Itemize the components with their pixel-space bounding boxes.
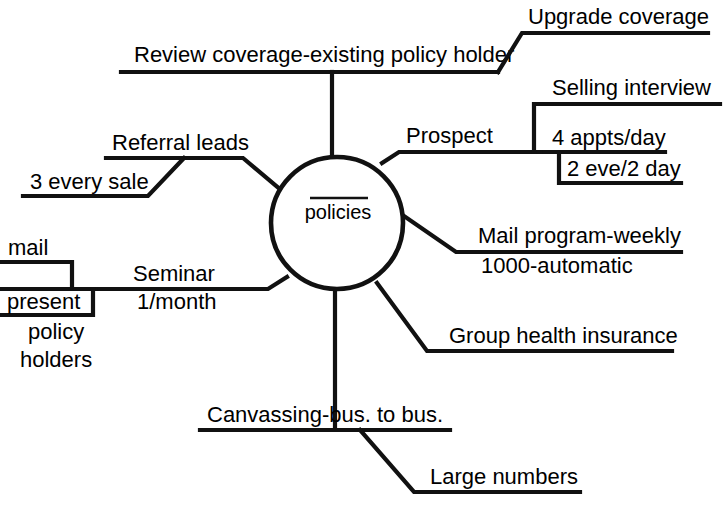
label-referral-leads: Referral leads [112, 130, 249, 155]
branch-eve-day[interactable]: 2 eve/2 day [559, 153, 681, 183]
label-holders: holders [20, 347, 92, 372]
mindmap-canvas: Review coverage-existing policy holder U… [0, 0, 727, 520]
label-seminar: Seminar [133, 261, 215, 286]
label-prospect: Prospect [406, 123, 493, 148]
label-mail-program: Mail program-weekly [478, 223, 681, 248]
center-circle [271, 157, 403, 289]
mindmap-diagram: Review coverage-existing policy holder U… [0, 0, 727, 520]
mail-connector [0, 262, 72, 289]
label-policies: policies [305, 201, 372, 223]
label-group-health: Group health insurance [449, 323, 678, 348]
label-canvassing: Canvassing-bus. to bus. [207, 402, 443, 427]
label-eve-day: 2 eve/2 day [567, 156, 681, 181]
branch-mail-program[interactable]: Mail program-weekly 1000-automatic [401, 214, 681, 278]
center-node-policies[interactable]: policies [271, 157, 403, 289]
branch-appts-per-day[interactable]: 4 appts/day [545, 125, 666, 152]
label-review-coverage: Review coverage-existing policy holder [134, 42, 514, 67]
label-upgrade-coverage: Upgrade coverage [528, 4, 709, 29]
branch-upgrade-coverage[interactable]: Upgrade coverage [498, 4, 709, 72]
branch-canvassing[interactable]: Canvassing-bus. to bus. [200, 289, 450, 430]
label-automatic: 1000-automatic [481, 253, 633, 278]
branch-large-numbers[interactable]: Large numbers [360, 430, 580, 492]
label-seminar-frequency: 1/month [137, 289, 217, 314]
label-large-numbers: Large numbers [430, 464, 578, 489]
label-three-every-sale: 3 every sale [30, 169, 149, 194]
branch-seminar[interactable]: Seminar 1/month [95, 261, 287, 314]
label-selling-interview: Selling interview [552, 75, 711, 100]
label-appts-per-day: 4 appts/day [552, 125, 666, 150]
prospect-baseline [382, 152, 545, 163]
label-present: present [7, 289, 80, 314]
branch-prospect[interactable]: Prospect [382, 123, 545, 163]
branch-mail[interactable]: mail [0, 235, 72, 289]
branch-group-health[interactable]: Group health insurance [377, 283, 678, 351]
label-policy: policy [28, 319, 84, 344]
upgrade-coverage-connector [498, 33, 708, 72]
branch-present-policy-holders[interactable]: present policy holders [0, 289, 95, 372]
branch-three-every-sale[interactable]: 3 every sale [23, 158, 184, 196]
label-mail: mail [8, 235, 48, 260]
